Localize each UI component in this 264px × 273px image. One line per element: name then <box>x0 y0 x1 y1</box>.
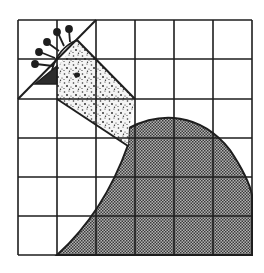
beak-region <box>35 66 57 84</box>
eye-icon <box>74 73 80 78</box>
quilt-bird-diagram <box>0 0 264 273</box>
diagram-svg <box>0 0 264 273</box>
